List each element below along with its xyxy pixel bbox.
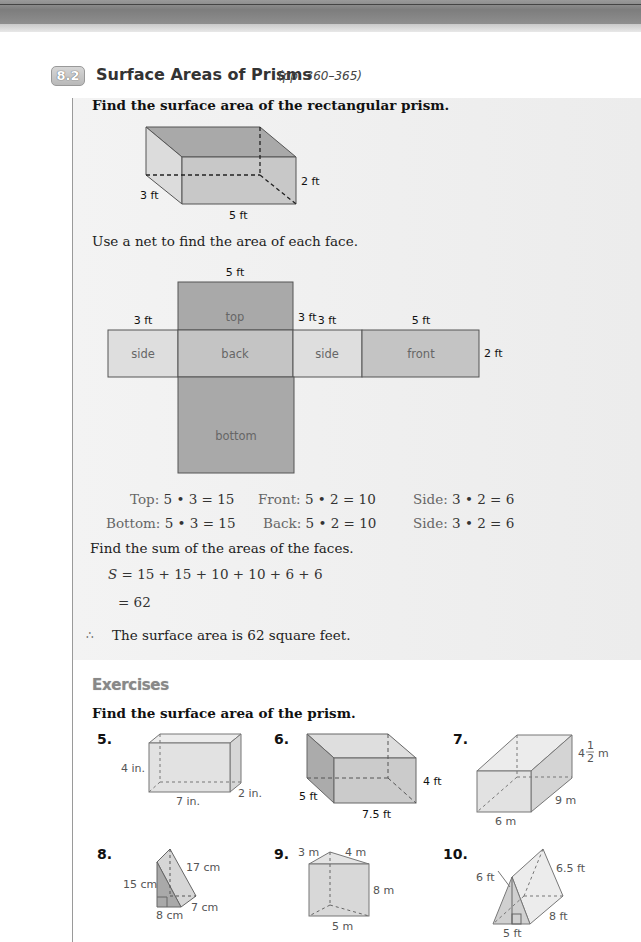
net-label-bottom: bottom	[215, 429, 257, 443]
net-top-width-label: 5 ft	[226, 266, 245, 279]
svg-text:4 m: 4 m	[345, 846, 366, 859]
prism-height-label: 2 ft	[301, 175, 320, 188]
exercise-7-number: 7.	[453, 731, 468, 747]
net-label-front: front	[407, 347, 435, 361]
net-top-height-label: 3 ft	[298, 311, 317, 324]
svg-text:4 in.: 4 in.	[121, 762, 145, 775]
face-area-side-1: Side: 3 • 2 = 6	[413, 491, 514, 507]
prism-depth-label: 3 ft	[140, 189, 159, 202]
sum-equation-line2: = 62	[118, 594, 151, 610]
exercise-7-figure: 4 1 2 m 9 m 6 m	[477, 735, 609, 828]
exercises-heading: Exercises	[92, 676, 169, 694]
svg-text:6 ft: 6 ft	[476, 871, 495, 884]
net-front-width-label: 5 ft	[412, 314, 431, 327]
sum-equation-line1: S = 15 + 15 + 10 + 10 + 6 + 6	[108, 566, 323, 582]
svg-text:2 in.: 2 in.	[238, 787, 262, 800]
conclusion-text: The surface area is 62 square feet.	[112, 627, 351, 643]
exercise-8-figure: 15 cm 17 cm 8 cm 7 cm	[123, 849, 220, 922]
therefore-icon: ∴	[86, 628, 94, 642]
svg-text:6.5 ft: 6.5 ft	[556, 862, 586, 875]
face-area-bottom: Bottom: 5 • 3 = 15	[106, 515, 235, 531]
svg-text:7 in.: 7 in.	[176, 795, 200, 808]
svg-text:17 cm: 17 cm	[186, 861, 220, 874]
svg-text:m: m	[598, 747, 609, 760]
net-label-side-left: side	[131, 347, 155, 361]
svg-text:8 m: 8 m	[373, 884, 394, 897]
net-label-back: back	[221, 347, 249, 361]
svg-text:9 m: 9 m	[555, 794, 576, 807]
face-area-top: Top: 5 • 3 = 15	[130, 491, 234, 507]
exercise-5-number: 5.	[97, 731, 112, 747]
exercise-6-figure: 5 ft 7.5 ft 4 ft	[299, 734, 442, 821]
net-front-height-label: 2 ft	[484, 347, 503, 360]
net-right-side-width-label: 3 ft	[318, 314, 337, 327]
exercises-instruction: Find the surface area of the prism.	[92, 705, 356, 721]
svg-text:3 m: 3 m	[298, 846, 319, 859]
prism-width-label: 5 ft	[229, 209, 248, 222]
svg-text:8 cm: 8 cm	[156, 909, 183, 922]
rectangular-prism-figure: 3 ft 5 ft 2 ft top side back side front …	[0, 0, 641, 942]
exercise-9-figure: 3 m 4 m 8 m 5 m	[298, 846, 394, 933]
svg-text:4 ft: 4 ft	[423, 775, 442, 788]
exercise-10-number: 10.	[443, 846, 468, 862]
svg-text:1: 1	[587, 739, 594, 752]
face-area-back: Back: 5 • 2 = 10	[263, 515, 376, 531]
sum-instruction: Find the sum of the areas of the faces.	[90, 540, 354, 556]
net-label-side-right: side	[315, 347, 339, 361]
net-left-side-width-label: 3 ft	[134, 314, 153, 327]
net-label-top: top	[226, 310, 245, 324]
svg-text:6 m: 6 m	[495, 815, 516, 828]
svg-text:7 cm: 7 cm	[191, 901, 218, 914]
svg-text:7.5 ft: 7.5 ft	[362, 808, 392, 821]
svg-text:15 cm: 15 cm	[123, 878, 157, 891]
svg-text:4: 4	[578, 747, 585, 760]
exercise-8-number: 8.	[97, 846, 112, 862]
exercise-10-figure: 6 ft 6.5 ft 8 ft 5 ft	[476, 849, 586, 940]
exercise-5-figure: 4 in. 7 in. 2 in.	[121, 734, 262, 808]
svg-text:2: 2	[587, 752, 594, 765]
exercise-9-number: 9.	[274, 846, 289, 862]
svg-text:5 m: 5 m	[332, 920, 353, 933]
face-area-front: Front: 5 • 2 = 10	[258, 491, 376, 507]
face-area-side-2: Side: 3 • 2 = 6	[413, 515, 514, 531]
svg-text:5 ft: 5 ft	[299, 790, 318, 803]
exercise-6-number: 6.	[274, 731, 289, 747]
net-face-bottom	[178, 377, 294, 473]
net-instruction: Use a net to find the area of each face.	[92, 233, 358, 249]
svg-text:5 ft: 5 ft	[503, 927, 522, 940]
svg-text:8 ft: 8 ft	[549, 910, 568, 923]
